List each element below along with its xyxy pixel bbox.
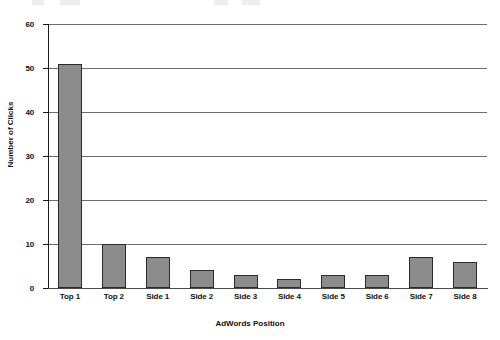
x-axis-line <box>48 288 488 289</box>
y-tick-label-20: 20 <box>26 196 35 205</box>
x-axis-category-labels: Top 1Top 2Side 1Side 2Side 3Side 4Side 5… <box>48 292 487 306</box>
x-tick-label-side-4: Side 4 <box>268 292 312 301</box>
x-tick-label-side-2: Side 2 <box>180 292 224 301</box>
x-tick-label-side-3: Side 3 <box>224 292 268 301</box>
bar-chart: 60 50 40 30 20 10 0 Top 1Top 2Side 1Side… <box>0 0 500 340</box>
bar-top-2 <box>102 24 126 288</box>
x-tick-label-side-8: Side 8 <box>443 292 487 301</box>
bar-rect <box>234 275 258 288</box>
bar-rect <box>277 279 301 288</box>
bar-top-1 <box>58 24 82 288</box>
bar-rect <box>190 270 214 288</box>
bar-rect <box>102 244 126 288</box>
bar-side-1 <box>146 24 170 288</box>
bar-rect <box>409 257 433 288</box>
y-tick-label-0: 0 <box>30 284 34 293</box>
x-tick-label-top-2: Top 2 <box>92 292 136 301</box>
y-tick-label-50: 50 <box>26 64 35 73</box>
bar-side-5 <box>321 24 345 288</box>
bar-rect <box>365 275 389 288</box>
bar-side-2 <box>190 24 214 288</box>
bar-side-7 <box>409 24 433 288</box>
bar-rect <box>453 262 477 288</box>
bar-series <box>48 24 487 288</box>
bar-side-4 <box>277 24 301 288</box>
bar-rect <box>321 275 345 288</box>
bar-side-6 <box>365 24 389 288</box>
bar-side-8 <box>453 24 477 288</box>
scan-artifact <box>24 0 284 5</box>
y-axis-title: Number of Clicks <box>6 85 15 185</box>
bar-rect <box>146 257 170 288</box>
x-tick-label-side-6: Side 6 <box>355 292 399 301</box>
bar-rect <box>58 64 82 288</box>
y-tick-label-60: 60 <box>26 20 35 29</box>
y-tick-label-40: 40 <box>26 108 35 117</box>
y-tick-label-10: 10 <box>26 240 35 249</box>
x-tick-label-side-1: Side 1 <box>136 292 180 301</box>
y-tick-label-30: 30 <box>26 152 35 161</box>
x-tick-label-top-1: Top 1 <box>48 292 92 301</box>
x-tick-label-side-7: Side 7 <box>399 292 443 301</box>
x-tick-label-side-5: Side 5 <box>311 292 355 301</box>
bar-side-3 <box>234 24 258 288</box>
x-axis-title: AdWords Position <box>0 319 500 328</box>
